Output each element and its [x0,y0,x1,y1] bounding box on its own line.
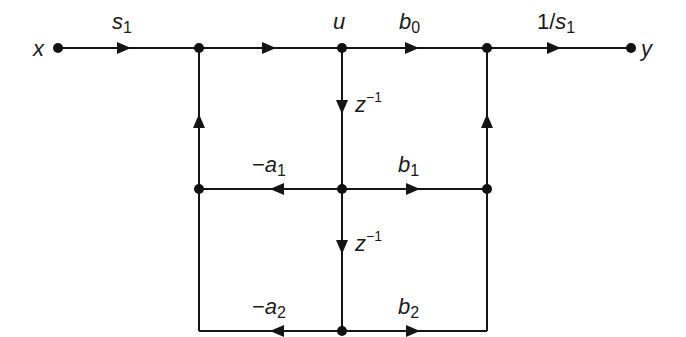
node-x [53,43,63,53]
arrow-right-icon [405,42,419,54]
label-b2: b2 [398,294,419,321]
arrow-right-icon [262,42,276,54]
arrow-up-icon [193,114,205,128]
label-b0: b0 [399,9,420,36]
label-z-inv-2: z−1 [354,228,382,256]
node-y [626,43,636,53]
node-n1 [194,43,204,53]
arrow-right-icon [547,42,561,54]
label-y: y [639,36,654,61]
node-n3 [482,43,492,53]
signal-flow-graph: x y u s1 b0 1/s1 z−1 z−1 −a1 b1 −a2 b2 [0,0,686,337]
arrow-down-icon [336,100,348,114]
arrow-right-icon [406,325,420,337]
arrow-left-icon [270,325,284,337]
arrow-right-icon [117,42,131,54]
node-n5 [337,184,347,194]
node-n4 [194,184,204,194]
node-n6 [482,184,492,194]
arrow-up-icon [481,114,493,128]
label-z-inv-1: z−1 [354,89,382,117]
label-s1: s1 [112,9,132,36]
node-n8 [337,326,347,336]
label-neg-a1: −a1 [252,152,286,179]
nodes [53,43,636,336]
arrow-left-icon [270,183,284,195]
arrow-down-icon [336,240,348,254]
label-neg-a2: −a2 [252,294,286,321]
arrow-right-icon [406,183,420,195]
label-inv-s1: 1/s1 [537,9,575,36]
node-u [337,43,347,53]
label-x: x [32,36,45,61]
label-u: u [333,9,345,34]
label-b1: b1 [398,152,419,179]
